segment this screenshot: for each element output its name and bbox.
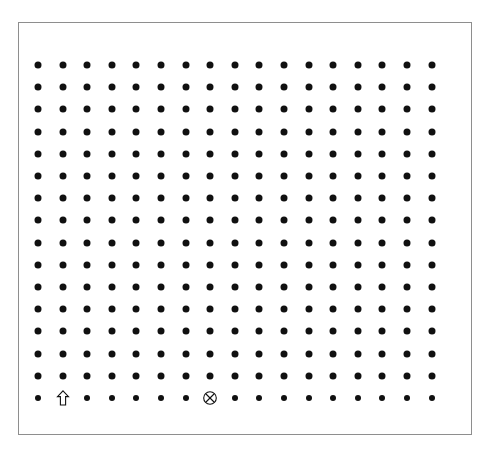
grid-dot <box>330 239 337 246</box>
dot-marker <box>207 62 214 69</box>
dot-marker <box>281 284 288 291</box>
dot-marker <box>158 306 165 313</box>
grid-dot <box>256 239 263 246</box>
dot-marker <box>158 372 165 379</box>
dot-marker <box>231 128 238 135</box>
grid-dot <box>84 328 91 335</box>
grid-dot <box>133 84 140 91</box>
grid-dot <box>428 328 435 335</box>
dot-marker <box>379 261 386 268</box>
grid-dot <box>256 62 263 69</box>
dot-marker <box>35 306 42 313</box>
grid-dot <box>182 350 189 357</box>
grid-dot <box>256 306 263 313</box>
dot-marker <box>207 306 214 313</box>
dot-marker <box>354 84 361 91</box>
grid-dot <box>354 350 361 357</box>
dot-marker <box>109 395 115 401</box>
grid-dot <box>404 106 411 113</box>
grid-dot <box>182 328 189 335</box>
grid-dot <box>59 350 66 357</box>
grid-dot <box>231 62 238 69</box>
grid-dot <box>158 261 165 268</box>
dot-marker <box>305 62 312 69</box>
dot-marker <box>108 84 115 91</box>
dot-marker <box>59 261 66 268</box>
dot-marker <box>404 372 411 379</box>
grid-dot <box>305 217 312 224</box>
grid-dot <box>35 395 41 401</box>
dot-marker <box>84 239 91 246</box>
dot-marker <box>379 395 385 401</box>
dot-marker <box>305 328 312 335</box>
dot-marker <box>354 372 361 379</box>
grid-dot <box>354 261 361 268</box>
grid-dot <box>428 173 435 180</box>
dot-marker <box>404 261 411 268</box>
grid-dot <box>330 217 337 224</box>
dot-marker <box>158 284 165 291</box>
grid-dot <box>182 128 189 135</box>
grid-dot <box>59 84 66 91</box>
dot-marker <box>379 150 386 157</box>
dot-marker <box>207 350 214 357</box>
grid-dot <box>35 372 42 379</box>
grid-dot <box>330 306 337 313</box>
grid-dot <box>281 284 288 291</box>
dot-marker <box>231 261 238 268</box>
grid-dot <box>231 128 238 135</box>
grid-dot <box>379 150 386 157</box>
grid-dot <box>404 306 411 313</box>
dot-marker <box>305 239 312 246</box>
grid-dot <box>84 372 91 379</box>
dot-marker <box>182 150 189 157</box>
dot-marker <box>404 284 411 291</box>
grid-dot <box>305 284 312 291</box>
dot-marker <box>305 173 312 180</box>
dot-marker <box>428 306 435 313</box>
grid-dot <box>84 173 91 180</box>
dot-marker <box>355 395 361 401</box>
dot-marker <box>281 395 287 401</box>
grid-dot <box>59 106 66 113</box>
grid-dot <box>281 328 288 335</box>
dot-marker <box>281 328 288 335</box>
dot-marker <box>231 173 238 180</box>
grid-dot <box>133 284 140 291</box>
dot-marker <box>84 195 91 202</box>
grid-dot <box>256 150 263 157</box>
dot-marker <box>305 150 312 157</box>
grid-dot <box>404 62 411 69</box>
dot-marker <box>330 84 337 91</box>
grid-dot <box>158 350 165 357</box>
dot-marker <box>281 128 288 135</box>
dot-marker <box>182 328 189 335</box>
dot-marker <box>133 84 140 91</box>
grid-dot <box>404 217 411 224</box>
grid-dot <box>207 128 214 135</box>
dot-marker <box>330 195 337 202</box>
dot-marker <box>428 217 435 224</box>
grid-dot <box>281 62 288 69</box>
grid-dot <box>231 195 238 202</box>
dot-marker <box>59 128 66 135</box>
dot-marker <box>354 62 361 69</box>
dot-marker <box>158 261 165 268</box>
dot-marker <box>108 350 115 357</box>
grid-dot <box>158 328 165 335</box>
grid-dot <box>133 150 140 157</box>
grid-dot <box>404 128 411 135</box>
dot-marker <box>231 239 238 246</box>
grid-dot <box>133 306 140 313</box>
dot-marker <box>330 372 337 379</box>
grid-dot <box>133 128 140 135</box>
dot-marker <box>256 62 263 69</box>
grid-dot <box>182 195 189 202</box>
dot-marker <box>256 350 263 357</box>
grid-dot <box>231 306 238 313</box>
grid-dot <box>108 173 115 180</box>
dot-marker <box>428 106 435 113</box>
grid-dot <box>108 84 115 91</box>
grid-dot <box>354 128 361 135</box>
dot-marker <box>35 372 42 379</box>
